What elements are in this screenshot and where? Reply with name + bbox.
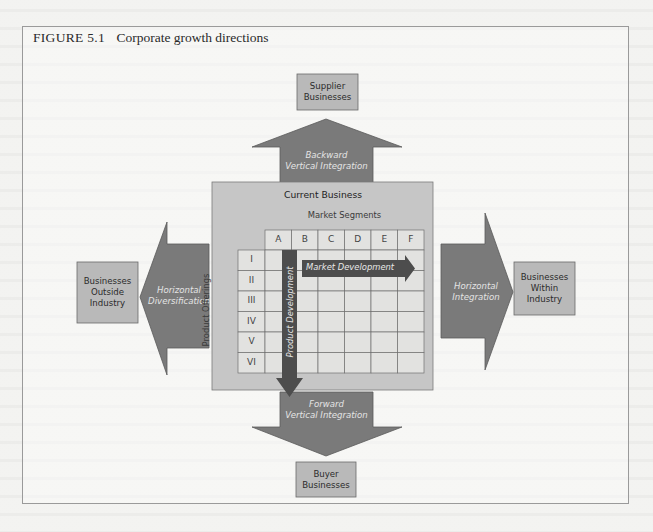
market-product-grid <box>238 230 424 373</box>
grid-cell <box>398 291 425 312</box>
column-label: A <box>265 234 292 244</box>
buyer-businesses-label: Buyer Businesses <box>296 462 356 497</box>
grid-cell <box>318 353 345 374</box>
row-label: III <box>238 295 265 305</box>
supplier-businesses-label: Supplier Businesses <box>297 74 358 110</box>
grid-cell <box>371 291 398 312</box>
forward-integration-label: Forward Vertical Integration <box>280 399 373 421</box>
horizontal-integration-label: Horizontal Integration <box>441 281 511 303</box>
outside-industry-label: Businesses Outside Industry <box>77 262 138 323</box>
grid-cell <box>345 291 372 312</box>
product-development-label: Product Development <box>285 252 295 372</box>
column-label: D <box>345 234 372 244</box>
row-label: V <box>238 336 265 346</box>
grid-cell <box>371 312 398 333</box>
product-offerings-title: Product Offerings <box>201 250 211 370</box>
grid-cell <box>345 332 372 353</box>
grid-cell <box>345 353 372 374</box>
grid-cell <box>371 353 398 374</box>
backward-integration-label: Backward Vertical Integration <box>280 150 373 172</box>
grid-cell <box>398 312 425 333</box>
market-segments-title: Market Segments <box>265 210 424 220</box>
row-label: VI <box>238 357 265 367</box>
grid-cell <box>398 332 425 353</box>
row-label: II <box>238 275 265 285</box>
column-label: E <box>371 234 398 244</box>
current-business-title: Current Business <box>212 189 434 200</box>
column-label: C <box>318 234 345 244</box>
grid-cell <box>371 332 398 353</box>
column-label: F <box>398 234 425 244</box>
grid-cell <box>318 332 345 353</box>
row-label: IV <box>238 316 265 326</box>
market-development-label: Market Development <box>306 262 394 272</box>
grid-cell <box>398 353 425 374</box>
row-label: I <box>238 254 265 264</box>
grid-cell <box>318 291 345 312</box>
grid-cell <box>345 312 372 333</box>
within-industry-label: Businesses Within Industry <box>514 262 575 315</box>
grid-cell <box>318 312 345 333</box>
column-label: B <box>292 234 319 244</box>
